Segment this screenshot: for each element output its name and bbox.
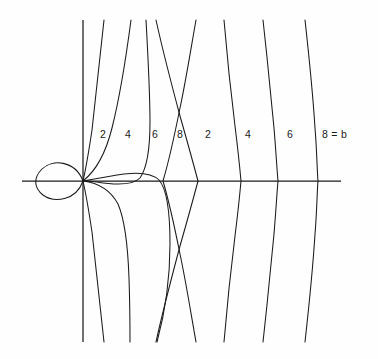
curve-label-6a: 6: [152, 128, 158, 140]
curve-label-2b: 2: [205, 128, 211, 140]
contour-figure: 2 4 6 8 2 4 6 8 = b: [0, 0, 378, 359]
curve-label-2a: 2: [100, 128, 106, 140]
curve-label-4a: 4: [125, 128, 131, 140]
curve-label-8b-equals-b: 8 = b: [322, 128, 347, 140]
curve-label-4b: 4: [245, 128, 251, 140]
curve-label-8a: 8: [177, 128, 183, 140]
figure-canvas: 2 4 6 8 2 4 6 8 = b: [0, 0, 378, 359]
curve-label-6b: 6: [287, 128, 293, 140]
